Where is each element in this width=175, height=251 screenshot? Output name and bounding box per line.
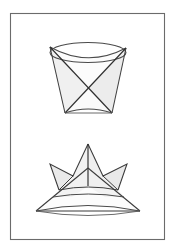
page-root: Geometric folded-form line drawing Upper… [0,0,175,251]
figure-canvas [0,0,175,251]
